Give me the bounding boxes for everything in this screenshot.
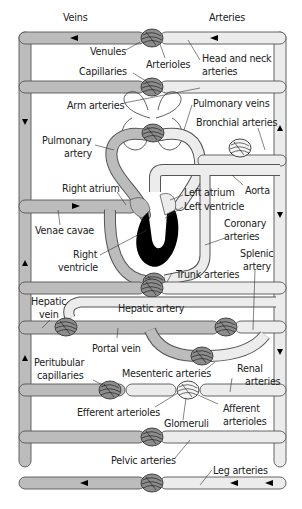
- label-peritubular-2: capillaries: [37, 370, 83, 381]
- label-trunk-arteries: Trunk arteries: [176, 269, 239, 280]
- label-splenic-2: artery: [243, 261, 271, 272]
- label-veins: Veins: [63, 12, 87, 23]
- label-bronchial-arteries: Bronchial arteries: [196, 117, 277, 128]
- label-leg-arteries: Leg arteries: [213, 465, 268, 476]
- label-right-atrium: Right atrium: [62, 183, 120, 194]
- label-pulmonary-artery-2: artery: [64, 148, 92, 159]
- label-afferent-2: arterioles: [223, 416, 267, 427]
- label-venae-cavae: Venae cavae: [35, 225, 94, 236]
- circulatory-system-diagram: Veins Arteries Venules Arterioles Head a…: [0, 0, 302, 509]
- label-right-ventricle-1: Right: [73, 249, 97, 260]
- label-right-ventricle-2: ventricle: [58, 262, 98, 273]
- label-mesenteric-arteries: Mesenteric arteries: [122, 368, 211, 379]
- label-head-neck-1: Head and neck: [202, 53, 271, 64]
- label-left-atrium: Left atrium: [184, 187, 235, 198]
- label-coronary-2: arteries: [224, 231, 259, 242]
- label-aorta: Aorta: [245, 185, 270, 196]
- label-pulmonary-artery-1: Pulmonary: [42, 135, 91, 146]
- label-left-ventricle: Left ventricle: [184, 201, 244, 212]
- label-arm-arteries: Arm arteries: [67, 100, 124, 111]
- label-peritubular-1: Peritubular: [34, 357, 84, 368]
- label-arteries: Arteries: [209, 12, 245, 23]
- label-arterioles: Arterioles: [146, 59, 190, 70]
- label-portal-vein: Portal vein: [92, 343, 141, 354]
- vein-trunk-left: [19, 32, 31, 467]
- label-renal-2: arteries: [245, 376, 280, 387]
- label-efferent-arterioles: Efferent arterioles: [77, 407, 160, 418]
- label-glomeruli: Glomeruli: [164, 418, 209, 429]
- label-capillaries: Capillaries: [79, 66, 127, 77]
- label-coronary-1: Coronary: [224, 218, 266, 229]
- label-pulmonary-veins: Pulmonary veins: [193, 98, 270, 109]
- label-splenic-1: Splenic: [240, 248, 273, 259]
- artery-trunk-right: [274, 32, 286, 467]
- label-hepatic-vein-1: Hepatic: [31, 296, 66, 307]
- label-venules: Venules: [90, 46, 126, 57]
- label-hepatic-vein-2: vein: [39, 309, 59, 320]
- label-afferent-1: Afferent: [223, 403, 260, 414]
- label-renal-1: Renal: [237, 363, 263, 374]
- label-pelvic-arteries: Pelvic arteries: [111, 455, 176, 466]
- label-hepatic-artery: Hepatic artery: [118, 303, 184, 314]
- label-head-neck-2: arteries: [202, 66, 237, 77]
